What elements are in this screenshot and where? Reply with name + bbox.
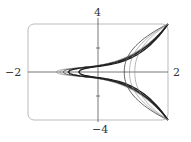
y-max-label: 4 xyxy=(94,7,101,18)
contour-plot xyxy=(0,0,191,142)
x-min-label: −2 xyxy=(5,67,21,78)
y-min-label: −4 xyxy=(92,124,108,135)
x-max-label: 2 xyxy=(173,67,180,78)
